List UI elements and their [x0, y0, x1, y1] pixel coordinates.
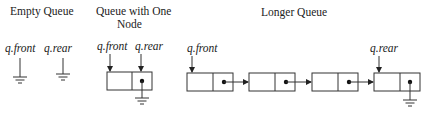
queue-node — [107, 72, 152, 90]
panel-title-line-1: Queue with One — [96, 5, 171, 17]
panel-title: Longer Queue — [261, 6, 327, 19]
front-label: q.front — [5, 42, 36, 55]
panel-title-line-2: Node — [117, 18, 142, 30]
rear-label: q.rear — [44, 42, 73, 55]
rear-label: q.rear — [135, 40, 164, 53]
panel-empty-queue: Empty Queue q.front q.rear — [5, 5, 74, 83]
panel-title: Empty Queue — [10, 5, 74, 18]
panel-longer-queue: Longer Queue q.front q.rear — [187, 6, 420, 106]
ground-icon — [56, 58, 70, 80]
rear-label: q.rear — [370, 42, 399, 55]
front-label: q.front — [187, 42, 218, 55]
queue-node — [374, 73, 420, 91]
front-label: q.front — [97, 40, 128, 53]
panel-one-node-queue: Queue with One Node q.front q.rear — [96, 5, 171, 104]
queue-diagram: Empty Queue q.front q.rear Queue with On… — [0, 0, 426, 117]
ground-icon — [13, 58, 27, 83]
